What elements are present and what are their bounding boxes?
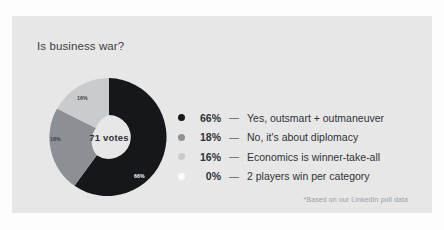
legend-percent: 66% <box>194 112 221 124</box>
donut-slice-label-16: 16% <box>77 95 88 101</box>
legend-item: 16% — Economics is winner-take-all <box>178 147 384 167</box>
donut-slice-label-18: 18% <box>50 136 61 142</box>
legend-color-dot-icon <box>178 173 185 180</box>
poll-result-card: Is business war? 71 votes 66% 18% 16% 66… <box>12 16 432 213</box>
donut-chart-svg <box>46 74 172 200</box>
chart-footnote: *Based on our LinkedIn poll data <box>304 196 408 203</box>
legend-color-dot-icon <box>178 114 185 121</box>
legend-color-dot-icon <box>178 153 185 160</box>
legend-item: 0% — 2 players win per category <box>178 167 384 187</box>
donut-chart: 71 votes 66% 18% 16% <box>46 74 172 200</box>
legend-color-dot-icon <box>178 134 185 141</box>
legend-label: 2 players win per category <box>247 170 370 182</box>
legend-dash: — <box>221 112 247 123</box>
legend-label: No, it's about diplomacy <box>247 131 358 143</box>
legend-percent: 0% <box>194 170 221 182</box>
legend-dash: — <box>221 171 247 182</box>
page-title: Is business war? <box>37 40 124 52</box>
legend-label: Yes, outsmart + outmaneuver <box>247 112 384 124</box>
legend-percent: 16% <box>194 151 221 163</box>
chart-legend: 66% — Yes, outsmart + outmaneuver 18% — … <box>178 108 384 186</box>
donut-slice-label-66: 66% <box>134 173 145 179</box>
legend-label: Economics is winner-take-all <box>247 151 380 163</box>
legend-item: 66% — Yes, outsmart + outmaneuver <box>178 108 384 128</box>
legend-percent: 18% <box>194 131 221 143</box>
legend-dash: — <box>221 151 247 162</box>
slide-frame: Is business war? 71 votes 66% 18% 16% 66… <box>0 0 444 230</box>
legend-item: 18% — No, it's about diplomacy <box>178 128 384 148</box>
legend-dash: — <box>221 132 247 143</box>
